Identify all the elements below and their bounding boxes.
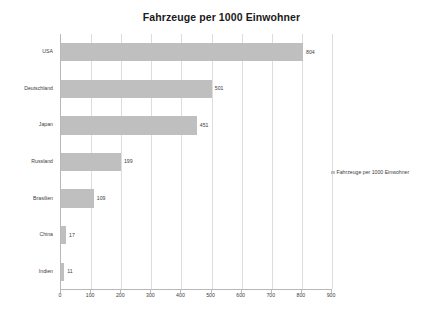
- bar[interactable]: [61, 226, 66, 244]
- tick-label: 100: [86, 293, 95, 298]
- tick-label: 400: [176, 293, 185, 298]
- tick-label: 700: [266, 293, 275, 298]
- plot-area: 8045014511991091711: [60, 34, 331, 290]
- category-label: Japan: [39, 123, 53, 128]
- category-label: Russland: [31, 159, 53, 164]
- category-label: Indien: [39, 269, 53, 274]
- bar[interactable]: [61, 116, 197, 134]
- bar[interactable]: [61, 80, 212, 98]
- bar[interactable]: [61, 153, 121, 171]
- bar-row: 501: [61, 80, 331, 98]
- category-label: Brasilien: [33, 196, 53, 201]
- tick-label: 600: [236, 293, 245, 298]
- bar-value-label: 17: [69, 233, 75, 238]
- bar-chart: Fahrzeuge per 1000 Einwohner USADeutschl…: [0, 0, 443, 324]
- category-label: China: [39, 233, 53, 238]
- bar-value-label: 804: [306, 50, 315, 55]
- chart-title: Fahrzeuge per 1000 Einwohner: [0, 11, 443, 23]
- bar-row: 804: [61, 43, 331, 61]
- legend: Fahrzeuge per 1000 Einwohner: [331, 170, 409, 175]
- tick-label: 800: [297, 293, 306, 298]
- tick-label: 300: [146, 293, 155, 298]
- category-axis-labels: USADeutschlandJapanRusslandBrasilienChin…: [0, 34, 57, 290]
- bar[interactable]: [61, 43, 303, 61]
- bar-row: 109: [61, 189, 331, 207]
- bar[interactable]: [61, 263, 64, 281]
- bar-row: 451: [61, 116, 331, 134]
- bar[interactable]: [61, 189, 94, 207]
- bar-value-label: 501: [215, 86, 224, 91]
- bar-row: 11: [61, 263, 331, 281]
- category-label: Deutschland: [24, 86, 53, 91]
- bar-value-label: 451: [200, 123, 209, 128]
- tick-label: 0: [59, 293, 62, 298]
- gridline: [332, 34, 333, 289]
- bars-layer: 8045014511991091711: [61, 34, 331, 289]
- bar-value-label: 199: [124, 159, 133, 164]
- tick-label: 900: [327, 293, 336, 298]
- bar-value-label: 11: [67, 269, 72, 274]
- category-label: USA: [42, 50, 53, 55]
- bar-value-label: 109: [97, 196, 106, 201]
- legend-swatch-icon: [331, 171, 335, 175]
- tick-label: 200: [116, 293, 125, 298]
- legend-item-label: Fahrzeuge per 1000 Einwohner: [337, 170, 410, 175]
- tick-label: 500: [206, 293, 215, 298]
- bar-row: 17: [61, 226, 331, 244]
- value-axis-labels: 0100200300400500600700800900: [60, 293, 331, 307]
- bar-row: 199: [61, 153, 331, 171]
